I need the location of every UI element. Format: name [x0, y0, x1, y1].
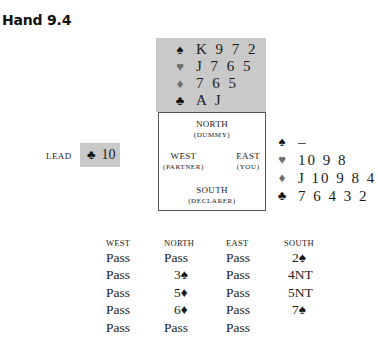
- diamond-icon: ♦: [172, 76, 188, 92]
- seat-east: EAST (YOU): [236, 151, 260, 171]
- east-clubs-cards: 7 6 4 3 2: [298, 188, 369, 205]
- east-hearts-cards: 10 9 8: [298, 152, 348, 169]
- north-diamonds-cards: 7 6 5: [196, 75, 239, 92]
- seat-north-role: (DUMMY): [159, 131, 265, 139]
- opening-lead-card: ♣ 10: [80, 143, 120, 167]
- auction-row: Pass Pass Pass: [106, 319, 334, 337]
- east-spades: ♠ –: [276, 133, 376, 151]
- north-diamonds: ♦ 7 6 5: [172, 75, 266, 92]
- spade-icon: ♠: [276, 134, 288, 150]
- lead-label: LEAD: [46, 151, 72, 161]
- bid-north: Pass: [164, 249, 226, 267]
- club-icon: ♣: [87, 147, 96, 163]
- bid-north: 5♦: [164, 284, 226, 302]
- bid-east: Pass: [226, 319, 284, 337]
- seat-east-role: (YOU): [236, 163, 260, 171]
- bid-south: 7♠: [284, 302, 334, 320]
- heart-icon: ♥: [172, 59, 188, 75]
- bid-south: 5NT: [284, 284, 334, 302]
- lead-card-rank: 10: [102, 147, 116, 163]
- east-hearts: ♥ 10 9 8: [276, 151, 376, 169]
- auction-row: Pass Pass Pass 2♠: [106, 249, 334, 267]
- header-north: NORTH: [164, 237, 226, 249]
- bid-east: Pass: [226, 284, 284, 302]
- seat-south-name: SOUTH: [159, 185, 265, 195]
- bid-north: 6♦: [164, 302, 226, 320]
- seat-west-name: WEST: [163, 151, 204, 161]
- north-spades-cards: K 9 7 2: [196, 41, 258, 58]
- heart-icon: ♥: [276, 152, 288, 168]
- bid-south: 2♠: [284, 249, 334, 267]
- bidding-auction: WEST NORTH EAST SOUTH Pass Pass Pass 2♠ …: [106, 237, 334, 337]
- auction-row: Pass 5♦ Pass 5NT: [106, 284, 334, 302]
- seat-north: NORTH (DUMMY): [159, 119, 265, 139]
- hand-title: Hand 9.4: [2, 12, 71, 28]
- bid-west: Pass: [106, 284, 164, 302]
- bid-south: [284, 319, 334, 337]
- bid-west: Pass: [106, 249, 164, 267]
- header-south: SOUTH: [284, 237, 334, 249]
- bid-east: Pass: [226, 249, 284, 267]
- bid-south: 4NT: [284, 267, 334, 285]
- north-hearts: ♥ J 7 6 5: [172, 58, 266, 75]
- auction-row: Pass 6♦ Pass 7♠: [106, 302, 334, 320]
- east-diamonds: ♦ J 10 9 8 4: [276, 169, 376, 187]
- header-east: EAST: [226, 237, 284, 249]
- north-hearts-cards: J 7 6 5: [196, 58, 253, 75]
- east-spades-cards: –: [298, 134, 308, 151]
- diamond-icon: ♦: [276, 170, 288, 186]
- seat-east-name: EAST: [236, 151, 260, 161]
- auction-table: WEST NORTH EAST SOUTH Pass Pass Pass 2♠ …: [106, 237, 334, 337]
- seat-south-role: (DECLARER): [159, 197, 265, 205]
- bid-east: Pass: [226, 267, 284, 285]
- east-hand: ♠ – ♥ 10 9 8 ♦ J 10 9 8 4 ♣ 7 6 4 3 2: [276, 133, 376, 205]
- header-west: WEST: [106, 237, 164, 249]
- bid-north: 3♠: [164, 267, 226, 285]
- bid-west: Pass: [106, 319, 164, 337]
- club-icon: ♣: [276, 188, 288, 204]
- north-clubs: ♣ A J: [172, 92, 266, 109]
- seat-west: WEST (PARTNER): [163, 151, 204, 171]
- north-spades: ♠ K 9 7 2: [172, 41, 266, 58]
- club-icon: ♣: [172, 93, 188, 109]
- north-hand: ♠ K 9 7 2 ♥ J 7 6 5 ♦ 7 6 5 ♣ A J: [156, 38, 266, 112]
- spade-icon: ♠: [172, 42, 188, 58]
- auction-header-row: WEST NORTH EAST SOUTH: [106, 237, 334, 249]
- east-diamonds-cards: J 10 9 8 4: [298, 170, 376, 187]
- bid-west: Pass: [106, 302, 164, 320]
- bid-west: Pass: [106, 267, 164, 285]
- compass-table: NORTH (DUMMY) WEST (PARTNER) EAST (YOU) …: [158, 112, 266, 211]
- north-clubs-cards: A J: [196, 92, 223, 109]
- seat-north-name: NORTH: [159, 119, 265, 129]
- bid-north: Pass: [164, 319, 226, 337]
- auction-row: Pass 3♠ Pass 4NT: [106, 267, 334, 285]
- bid-east: Pass: [226, 302, 284, 320]
- east-clubs: ♣ 7 6 4 3 2: [276, 187, 376, 205]
- seat-west-role: (PARTNER): [163, 163, 204, 171]
- seat-south: SOUTH (DECLARER): [159, 185, 265, 205]
